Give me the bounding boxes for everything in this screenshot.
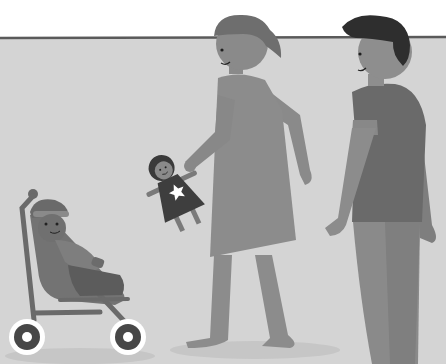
- woman-hand: [184, 160, 196, 172]
- stroller-wheel-right: [110, 319, 146, 355]
- stroller-wheel-left: [9, 319, 45, 355]
- family-illustration: [0, 0, 446, 364]
